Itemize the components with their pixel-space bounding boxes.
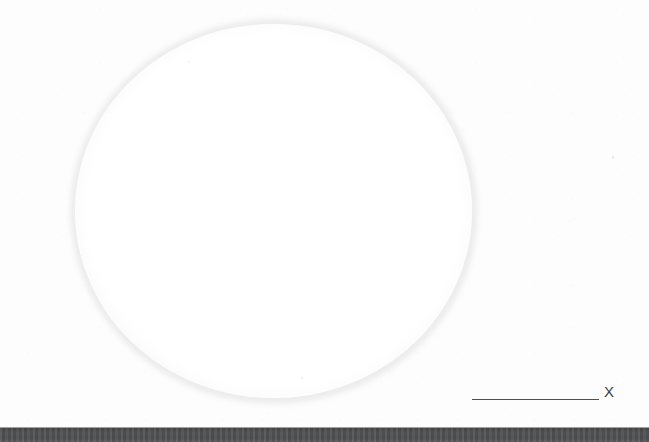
figure-canvas: X: [0, 0, 649, 442]
scale-bar: X: [472, 384, 624, 406]
scan-dust-speck: [612, 156, 614, 159]
sphere-body: [75, 24, 472, 398]
scan-dust-speck: [301, 377, 303, 379]
scale-bar-line: [472, 399, 599, 400]
scan-dust-speck: [188, 61, 190, 63]
scale-bar-label: X: [604, 384, 614, 399]
substrate-bar: [0, 428, 649, 442]
